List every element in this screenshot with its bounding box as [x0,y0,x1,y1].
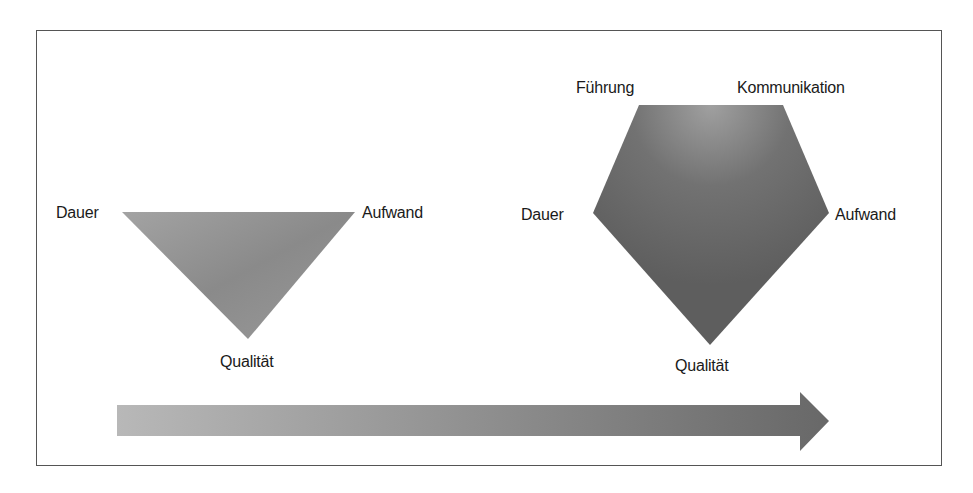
pentagon-label-dauer: Dauer [521,206,564,224]
pentagon-label-qualitaet: Qualität [675,357,729,375]
triangle-label-dauer: Dauer [56,204,99,222]
triangle-shape [122,212,355,339]
pentagon-label-kommunikation: Kommunikation [737,79,845,97]
pentagon-label-aufwand: Aufwand [835,206,896,224]
pentagon-label-fuehrung: Führung [576,79,634,97]
progress-arrow-icon [117,392,829,451]
diagram-shapes [0,0,973,493]
triangle-label-qualitaet: Qualität [220,353,274,371]
triangle-label-aufwand: Aufwand [362,204,423,222]
pentagon-shape [593,105,829,345]
